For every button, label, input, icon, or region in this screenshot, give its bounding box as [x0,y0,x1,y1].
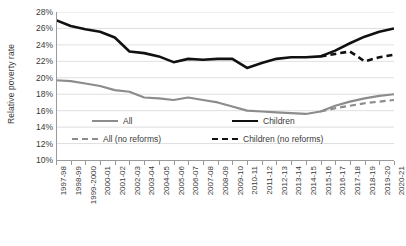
x-tick [335,161,336,165]
x-tick [365,161,366,165]
x-tick-label: 2003-04 [147,166,156,195]
x-tick [71,161,72,165]
y-axis-line [56,12,57,161]
legend-label: All [123,116,132,126]
x-tick-label: 2018-19 [368,166,377,195]
x-tick-label: 2009-10 [236,166,245,195]
x-tick-label: 2015-16 [324,166,333,195]
y-tick-label: 28% [36,7,53,17]
series-line [56,80,394,114]
y-axis-title: Relative poverty rate [0,0,22,168]
y-tick-label: 10% [36,155,53,165]
x-tick [174,161,175,165]
x-tick [394,161,395,165]
x-tick [379,161,380,165]
y-axis-title-label: Relative poverty rate [6,44,16,124]
x-tick-label: 2020-21 [397,166,406,195]
y-tick-label: 14% [36,122,53,132]
y-tick-label: 20% [36,73,53,83]
x-tick-label: 2012-13 [280,166,289,195]
x-tick-label: 2007-08 [206,166,215,195]
x-tick-label: 1999-2000 [89,166,98,204]
legend-swatch-dashed-line-icon [212,138,238,140]
x-tick-label: 2014-15 [309,166,318,195]
x-tick-label: 2005-06 [177,166,186,195]
x-tick [144,161,145,165]
legend-swatch-dashed-line-icon [72,138,98,140]
x-tick [232,161,233,165]
x-tick-label: 2019-20 [383,166,392,195]
y-tick-label: 16% [36,106,53,116]
x-tick [321,161,322,165]
x-tick-label: 2013-14 [294,166,303,195]
x-tick [350,161,351,165]
y-tick-label: 12% [36,139,53,149]
legend-item[interactable]: All [92,114,132,128]
x-tick [203,161,204,165]
x-tick-label: 2017-18 [353,166,362,195]
x-tick-label: 2000-01 [103,166,112,195]
y-tick-label: 18% [36,89,53,99]
x-tick-label: 2011-12 [265,166,274,195]
x-tick-label: 1998-99 [74,166,83,195]
x-tick [276,161,277,165]
y-tick-label: 22% [36,56,53,66]
x-tick-label: 2006-07 [191,166,200,195]
x-tick-label: 2004-05 [162,166,171,195]
x-axis-tick-labels: 1997-981998-991999-20002000-012001-02200… [56,166,394,224]
x-tick [247,161,248,165]
x-tick [262,161,263,165]
legend-label: Children (no reforms) [243,134,323,144]
x-tick [129,161,130,165]
x-tick [218,161,219,165]
legend-label: All (no reforms) [103,134,161,144]
legend-item[interactable]: Children (no reforms) [212,132,323,146]
series-line [321,100,394,112]
x-tick-label: 2010-11 [250,166,259,195]
legend-swatch-solid-line-icon [232,120,258,122]
y-axis-tick-labels: 10%12%14%16%18%20%22%24%26%28% [22,0,56,168]
x-tick [291,161,292,165]
legend-item[interactable]: All (no reforms) [72,132,161,146]
x-tick-label: 2002-03 [133,166,142,195]
x-tick-label: 2008-09 [221,166,230,195]
x-tick [188,161,189,165]
x-tick-label: 1997-98 [59,166,68,195]
x-tick [56,161,57,165]
x-tick [159,161,160,165]
x-tick-label: 2001-02 [118,166,127,195]
x-tick [85,161,86,165]
x-tick [100,161,101,165]
y-tick-label: 24% [36,40,53,50]
legend-swatch-solid-line-icon [92,120,118,122]
series-line [56,20,394,68]
x-tick [306,161,307,165]
legend-item[interactable]: Children [232,114,295,128]
x-tick-label: 2016-17 [338,166,347,195]
legend-label: Children [263,116,295,126]
y-tick-label: 26% [36,23,53,33]
series-paths [56,20,394,114]
x-tick [115,161,116,165]
